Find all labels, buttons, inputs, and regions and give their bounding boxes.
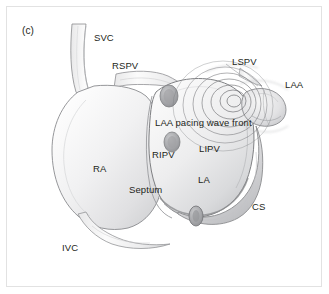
- atria-anatomy-illustration: [0, 0, 329, 294]
- label-cs: CS: [252, 202, 265, 212]
- label-la: LA: [198, 175, 210, 185]
- label-svc: SVC: [94, 33, 114, 43]
- label-laa: LAA: [285, 80, 303, 90]
- label-lspv: LSPV: [232, 57, 257, 67]
- rspv-ostium: [160, 85, 178, 107]
- right-atrium-body: [52, 85, 165, 229]
- panel-letter-label: (c): [22, 26, 34, 36]
- label-laa-pacing-wave-front: LAA pacing wave front: [155, 118, 252, 128]
- label-ripv: RIPV: [152, 150, 175, 160]
- cs-ostium: [189, 206, 203, 226]
- label-lipv: LIPV: [199, 144, 220, 154]
- label-rspv: RSPV: [112, 61, 138, 71]
- figure-panel: (c) SVC RSPV LSPV LAA LAA pacing wave fr…: [0, 0, 329, 294]
- label-septum: Septum: [129, 185, 162, 195]
- label-ivc: IVC: [62, 243, 78, 253]
- label-ra: RA: [93, 164, 106, 174]
